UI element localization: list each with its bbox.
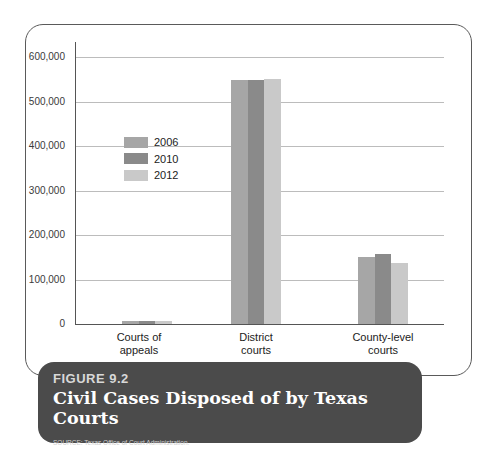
y-tick-label: 0 <box>0 318 65 329</box>
legend-label: 2006 <box>154 136 178 148</box>
x-label-line: appeals <box>84 344 194 357</box>
bar-2012 <box>264 79 281 324</box>
legend-swatch <box>124 137 148 148</box>
x-label-district-courts: District courts <box>201 331 311 357</box>
legend: 2006 2010 2012 <box>124 134 178 184</box>
x-label-county-level-courts: County-level courts <box>328 331 438 357</box>
figure-number: FIGURE 9.2 <box>53 371 422 386</box>
y-axis <box>75 42 76 325</box>
x-label-line: District <box>201 331 311 344</box>
legend-label: 2010 <box>154 153 178 165</box>
bar-2006 <box>358 257 375 324</box>
figure-title: Civil Cases Disposed of by Texas Courts <box>53 388 422 428</box>
x-label-line: County-level <box>328 331 438 344</box>
y-tick-label: 100,000 <box>0 274 65 285</box>
y-tick-label: 200,000 <box>0 229 65 240</box>
legend-swatch <box>124 170 148 181</box>
x-axis <box>75 324 444 325</box>
bar-2010 <box>375 254 392 324</box>
figure-caption: FIGURE 9.2 Civil Cases Disposed of by Te… <box>38 362 422 443</box>
bar-2006 <box>231 80 248 324</box>
x-label-line: Courts of <box>84 331 194 344</box>
figure-source: SOURCE: Texas Office of Court Administra… <box>53 439 422 446</box>
x-label-line: courts <box>328 344 438 357</box>
bar-2010 <box>139 321 156 324</box>
y-tick-label: 300,000 <box>0 185 65 196</box>
bar-2012 <box>155 321 172 324</box>
y-tick-label: 600,000 <box>0 51 65 62</box>
legend-swatch <box>124 153 148 164</box>
gridline <box>76 57 444 58</box>
bar-2012 <box>391 263 408 324</box>
legend-label: 2012 <box>154 169 178 181</box>
x-label-courts-of-appeals: Courts of appeals <box>84 331 194 357</box>
y-tick-label: 400,000 <box>0 140 65 151</box>
y-tick-label: 500,000 <box>0 96 65 107</box>
legend-item-2006: 2006 <box>124 134 178 151</box>
x-label-line: courts <box>201 344 311 357</box>
legend-item-2012: 2012 <box>124 167 178 184</box>
bar-2010 <box>248 80 265 324</box>
bar-2006 <box>122 321 139 324</box>
legend-item-2010: 2010 <box>124 151 178 168</box>
